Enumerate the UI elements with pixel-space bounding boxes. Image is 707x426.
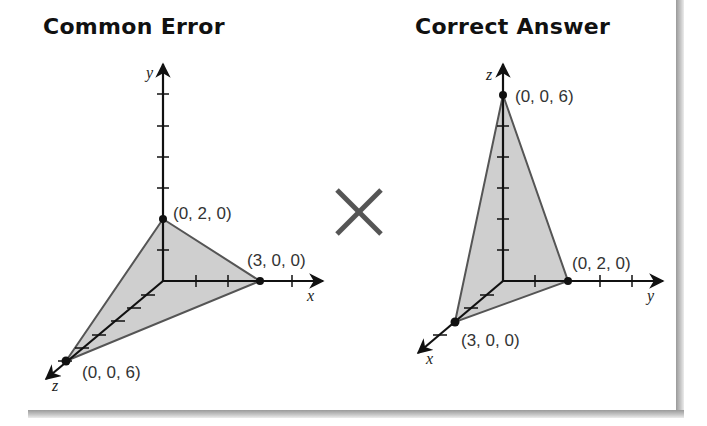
- left-point-z: [62, 357, 71, 366]
- left-label-3-0-0: (3, 0, 0): [247, 251, 306, 270]
- right-x-axis-label: x: [425, 350, 433, 367]
- right-plot: z y x (0, 0, 6) (0, 2, 0) (3, 0, 0): [418, 64, 663, 367]
- left-plot: y x z (0, 2, 0) (3, 0, 0) (0, 0, 6): [46, 64, 323, 394]
- right-point-z: [499, 91, 507, 99]
- left-point-x: [256, 277, 264, 285]
- left-x-axis-label: x: [306, 287, 314, 304]
- left-z-axis-label: z: [51, 377, 59, 394]
- right-point-x: [451, 318, 460, 327]
- left-label-0-0-6: (0, 0, 6): [82, 363, 141, 382]
- right-z-axis-label: z: [485, 66, 493, 83]
- cross-mark-icon: [337, 190, 381, 234]
- right-label-3-0-0: (3, 0, 0): [461, 331, 520, 350]
- right-y-axis-label: y: [645, 287, 655, 305]
- left-y-axis-label: y: [144, 64, 154, 82]
- right-label-0-2-0: (0, 2, 0): [572, 254, 631, 273]
- right-label-0-0-6: (0, 0, 6): [515, 87, 574, 106]
- right-point-y: [564, 277, 572, 285]
- right-triangle-plane: [455, 95, 568, 322]
- left-label-0-2-0: (0, 2, 0): [173, 204, 232, 223]
- diagram-canvas: y x z (0, 2, 0) (3, 0, 0) (0, 0, 6): [0, 0, 707, 426]
- left-point-y: [159, 215, 167, 223]
